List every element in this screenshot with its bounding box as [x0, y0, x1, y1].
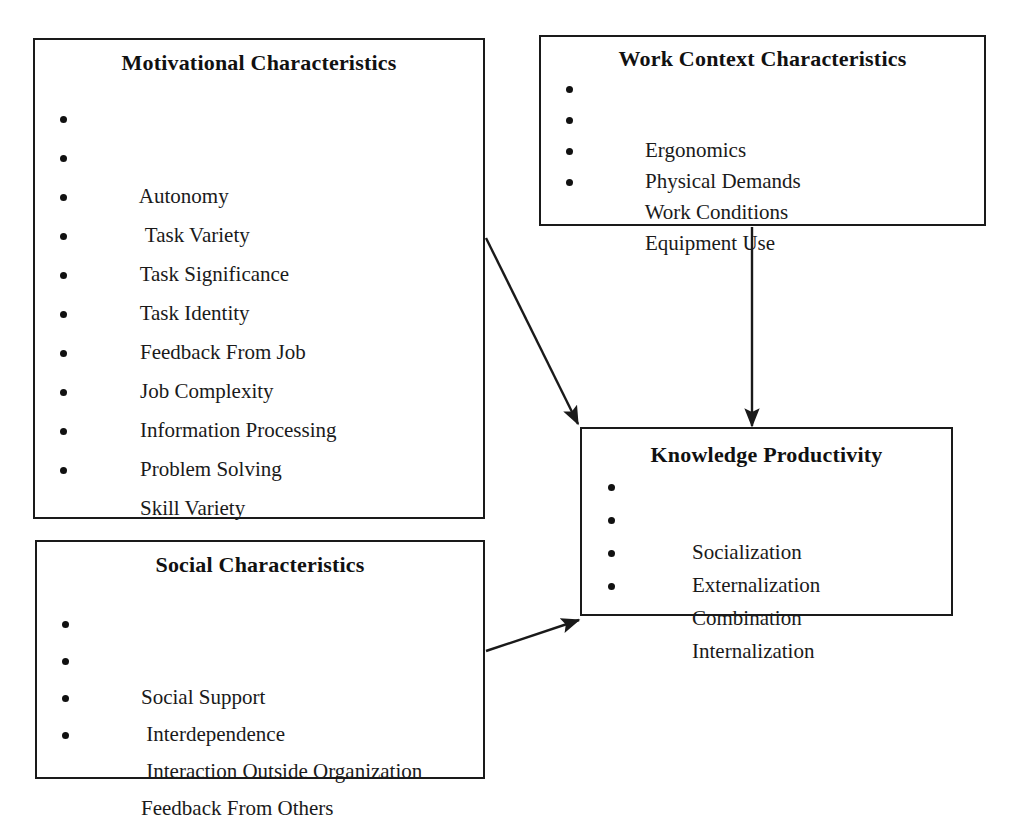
node-social-title: Social Characteristics	[37, 553, 483, 577]
bullet-dot-icon	[608, 583, 615, 590]
list-item: Internalization	[582, 569, 951, 602]
list-item: Equipment Use	[541, 166, 984, 197]
list-item-label: Work Conditions	[645, 200, 789, 224]
list-item-label: Equipment Use	[645, 231, 775, 255]
list-item: Feedback From Job	[35, 255, 483, 294]
bullet-dot-icon	[566, 148, 573, 155]
list-item: Physical Demands	[541, 104, 984, 135]
bullet-dot-icon	[608, 550, 615, 557]
bullet-dot-icon	[62, 695, 69, 702]
list-item: Skill Variety	[35, 411, 483, 450]
node-motivational-title: Motivational Characteristics	[35, 51, 483, 75]
list-item: Specialization	[35, 450, 483, 489]
connector-motivational-to-knowledge	[486, 238, 578, 424]
list-item: Ergonomics	[541, 73, 984, 104]
bullet-dot-icon	[60, 467, 67, 474]
list-item: Task Variety	[35, 138, 483, 177]
list-item: Feedback From Others	[37, 716, 483, 753]
motivational-item-list: Autonomy Task Variety Task Significance …	[35, 99, 483, 489]
knowledge-item-list: Socialization Externalization Combinatio…	[582, 470, 951, 602]
bullet-dot-icon	[608, 484, 615, 491]
bullet-dot-icon	[60, 116, 67, 123]
bullet-dot-icon	[60, 350, 67, 357]
list-item: Autonomy	[35, 99, 483, 138]
bullet-dot-icon	[60, 389, 67, 396]
bullet-dot-icon	[566, 179, 573, 186]
bullet-dot-icon	[62, 658, 69, 665]
bullet-dot-icon	[60, 428, 67, 435]
list-item: Work Conditions	[541, 135, 984, 166]
node-work-context-characteristics[interactable]: Work Context Characteristics Ergonomics …	[539, 35, 986, 226]
list-item: Combination	[582, 536, 951, 569]
bullet-dot-icon	[60, 311, 67, 318]
bullet-dot-icon	[62, 732, 69, 739]
list-item: Information Processing	[35, 333, 483, 372]
bullet-dot-icon	[60, 194, 67, 201]
node-knowledge-productivity[interactable]: Knowledge Productivity Socialization Ext…	[580, 427, 953, 616]
node-social-characteristics[interactable]: Social Characteristics Social Support In…	[35, 540, 485, 779]
bullet-dot-icon	[566, 86, 573, 93]
list-item: Interaction Outside Organization	[37, 679, 483, 716]
work-context-item-list: Ergonomics Physical Demands Work Conditi…	[541, 73, 984, 197]
list-item: Task Identity	[35, 216, 483, 255]
connector-social-to-knowledge	[486, 620, 579, 651]
list-item: Socialization	[582, 470, 951, 503]
bullet-dot-icon	[62, 621, 69, 628]
list-item: Task Significance	[35, 177, 483, 216]
bullet-dot-icon	[60, 155, 67, 162]
list-item-label: Combination	[692, 606, 802, 630]
bullet-dot-icon	[566, 117, 573, 124]
node-motivational-characteristics[interactable]: Motivational Characteristics Autonomy Ta…	[33, 38, 485, 519]
list-item: Interdependence	[37, 642, 483, 679]
list-item: Job Complexity	[35, 294, 483, 333]
list-item-label: Skill Variety	[140, 496, 245, 520]
node-knowledge-title: Knowledge Productivity	[582, 443, 951, 467]
list-item: Problem Solving	[35, 372, 483, 411]
social-item-list: Social Support Interdependence Interacti…	[37, 605, 483, 753]
list-item-label: Internalization	[692, 639, 814, 663]
list-item-label: Feedback From Others	[141, 796, 333, 819]
node-work-context-title: Work Context Characteristics	[541, 47, 984, 71]
list-item: Externalization	[582, 503, 951, 536]
bullet-dot-icon	[60, 233, 67, 240]
bullet-dot-icon	[608, 517, 615, 524]
list-item-label: Interaction Outside Organization	[141, 759, 422, 783]
list-item: Social Support	[37, 605, 483, 642]
bullet-dot-icon	[60, 272, 67, 279]
